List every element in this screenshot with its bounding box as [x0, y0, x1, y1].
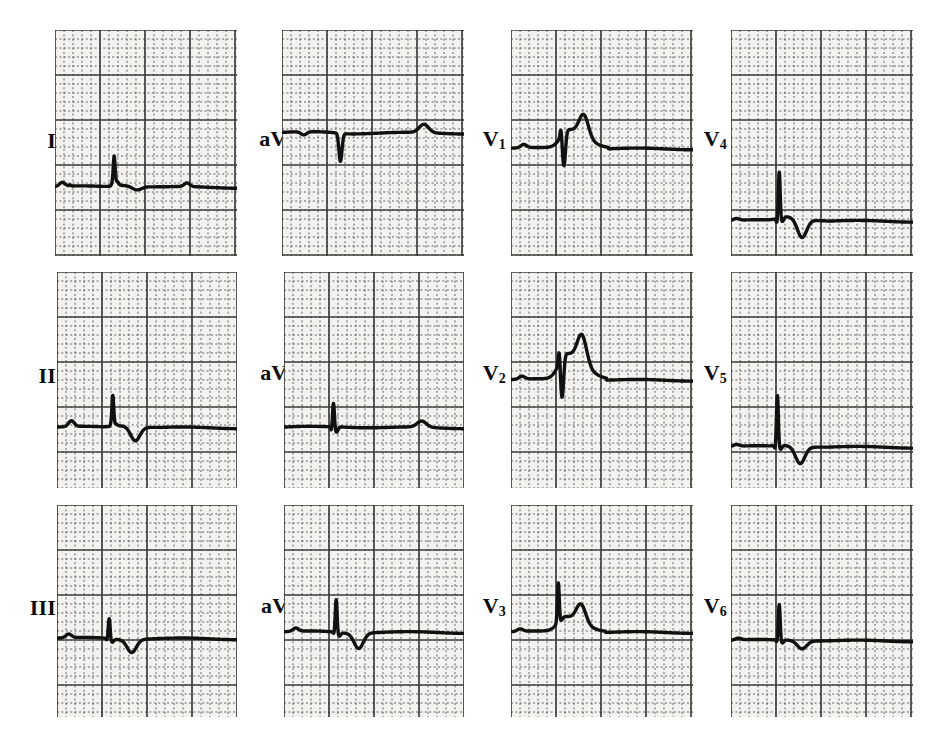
- ecg-waveform-v5: [731, 272, 913, 488]
- ecg-grid: [57, 505, 237, 717]
- lead-label-v2: V2: [462, 362, 506, 384]
- ecg-trace-line: [57, 619, 237, 653]
- ecg-strip-avf: [284, 505, 464, 717]
- ecg-waveform-ii: [57, 272, 237, 488]
- lead-label-sub: F: [288, 598, 299, 617]
- lead-label-v3: V3: [462, 595, 506, 617]
- lead-label-sub: 3: [499, 604, 506, 619]
- lead-label-sub: 4: [720, 137, 727, 152]
- lead-cell-avf: aVF: [0, 0, 933, 752]
- lead-label-v1: V1: [462, 128, 506, 150]
- lead-label-main: aV: [260, 360, 287, 385]
- lead-label-main: V: [704, 126, 720, 151]
- ecg-trace-line: [55, 156, 237, 190]
- lead-cell-ii: II: [0, 0, 933, 752]
- ecg-trace-line: [731, 396, 913, 464]
- lead-label-sub: 5: [720, 371, 727, 386]
- ecg-trace-line: [511, 583, 693, 633]
- lead-label-main: III: [30, 595, 56, 620]
- lead-cell-v6: V6: [0, 0, 933, 752]
- ecg-grid: [731, 272, 913, 488]
- lead-label-v5: V5: [683, 362, 727, 384]
- ecg-waveform-avl: [284, 272, 464, 488]
- ecg-strip-v6: [731, 505, 913, 717]
- lead-cell-v3: V3: [0, 0, 933, 752]
- lead-label-iii: III: [10, 597, 56, 619]
- ecg-grid: [511, 272, 693, 488]
- ecg-grid: [284, 505, 464, 717]
- ecg-sheet: IaVRV1V4IIaVLV2V5IIIaVFV3V6: [0, 0, 933, 752]
- lead-label-i: I: [22, 130, 56, 152]
- lead-label-main: V: [704, 593, 720, 618]
- ecg-waveform-v3: [511, 505, 693, 717]
- ecg-strip-avr: [282, 30, 464, 256]
- ecg-strip-ii: [57, 272, 237, 488]
- lead-label-main: V: [483, 126, 499, 151]
- ecg-strip-i: [55, 30, 237, 256]
- ecg-waveform-avr: [282, 30, 464, 256]
- lead-label-avr: aVR: [237, 128, 299, 150]
- ecg-waveform-v2: [511, 272, 693, 488]
- ecg-strip-v1: [511, 30, 693, 256]
- ecg-strip-iii: [57, 505, 237, 717]
- ecg-trace-line: [57, 395, 237, 440]
- ecg-waveform-iii: [57, 505, 237, 717]
- ecg-trace-line: [731, 605, 913, 649]
- ecg-strip-v4: [731, 30, 913, 256]
- ecg-grid: [55, 30, 237, 256]
- ecg-waveform-avf: [284, 505, 464, 717]
- lead-label-ii: II: [16, 365, 56, 387]
- lead-label-sub: L: [287, 365, 299, 384]
- lead-cell-iii: III: [0, 0, 933, 752]
- ecg-waveform-v1: [511, 30, 693, 256]
- lead-label-sub: 2: [499, 371, 506, 386]
- lead-label-main: V: [704, 360, 720, 385]
- lead-label-sub: 6: [720, 604, 727, 619]
- ecg-grid: [282, 30, 464, 256]
- ecg-waveform-i: [55, 30, 237, 256]
- ecg-trace-line: [511, 114, 693, 165]
- lead-cell-v1: V1: [0, 0, 933, 752]
- ecg-grid: [57, 272, 237, 488]
- lead-cell-avr: aVR: [0, 0, 933, 752]
- ecg-trace-line: [284, 403, 464, 432]
- ecg-strip-v2: [511, 272, 693, 488]
- lead-label-main: aV: [261, 593, 288, 618]
- ecg-grid: [284, 272, 464, 488]
- lead-cell-v4: V4: [0, 0, 933, 752]
- ecg-trace-line: [284, 600, 464, 649]
- ecg-waveform-v6: [731, 505, 913, 717]
- lead-cell-i: I: [0, 0, 933, 752]
- ecg-grid: [511, 30, 693, 256]
- ecg-trace-line: [511, 334, 693, 397]
- ecg-grid: [731, 505, 913, 717]
- lead-cell-v5: V5: [0, 0, 933, 752]
- lead-label-v4: V4: [683, 128, 727, 150]
- lead-label-v6: V6: [683, 595, 727, 617]
- lead-label-main: I: [47, 128, 56, 153]
- lead-label-main: II: [38, 363, 56, 388]
- lead-label-main: aV: [259, 126, 286, 151]
- ecg-strip-v5: [731, 272, 913, 488]
- lead-label-main: V: [483, 360, 499, 385]
- ecg-trace-line: [282, 124, 464, 161]
- ecg-strip-avl: [284, 272, 464, 488]
- ecg-trace-line: [731, 172, 913, 237]
- lead-cell-v2: V2: [0, 0, 933, 752]
- ecg-grid: [511, 505, 693, 717]
- ecg-grid: [731, 30, 913, 256]
- lead-label-main: V: [483, 593, 499, 618]
- lead-label-avl: aVL: [237, 362, 299, 384]
- ecg-waveform-v4: [731, 30, 913, 256]
- lead-label-avf: aVF: [237, 595, 299, 617]
- ecg-strip-v3: [511, 505, 693, 717]
- lead-label-sub: R: [287, 131, 299, 150]
- lead-label-sub: 1: [499, 137, 506, 152]
- lead-cell-avl: aVL: [0, 0, 933, 752]
